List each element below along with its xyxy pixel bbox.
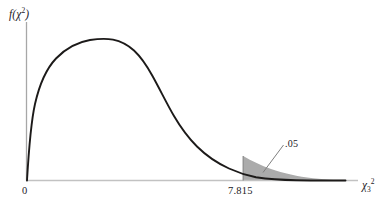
y-axis-label-close: ) — [25, 8, 29, 20]
x-axis-label-exponent: 2 — [371, 177, 375, 186]
chi-square-distribution-figure: f(χ2) χ32 0 7.815 .05 — [0, 0, 387, 212]
annotation-leader-line — [263, 145, 284, 173]
chart-canvas — [0, 0, 387, 212]
origin-tick-label: 0 — [22, 186, 27, 197]
x-axis-label: χ32 — [362, 178, 375, 193]
y-axis-label-text: f(χ — [9, 8, 21, 20]
tail-area-annotation-label: .05 — [285, 139, 298, 149]
critical-value-tick-label: 7.815 — [228, 186, 253, 197]
y-axis-label: f(χ2) — [9, 7, 29, 20]
density-curve — [27, 39, 346, 181]
